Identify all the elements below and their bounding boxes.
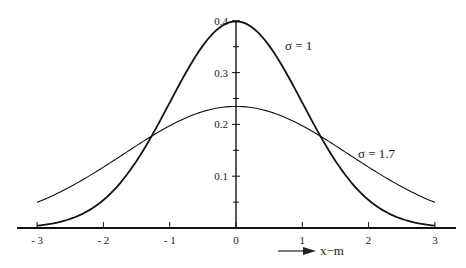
sigma-1-label: σ = 1 — [285, 38, 312, 53]
arrow-right-icon — [303, 247, 316, 255]
y-tick-label: 0.3 — [214, 67, 228, 79]
x-tick-label: - 3 — [31, 234, 43, 246]
x-tick-label: - 2 — [97, 234, 109, 246]
x-axis-title: x−m — [278, 243, 344, 258]
x-tick-label: - 1 — [164, 234, 176, 246]
x-tick-label: 3 — [432, 234, 438, 246]
y-tick-label: 0.1 — [214, 170, 228, 182]
sigma-1.7-label: σ = 1.7 — [358, 146, 396, 161]
y-tick-label: 0.4 — [214, 15, 228, 27]
y-tick-label: 0.2 — [214, 118, 228, 130]
x-tick-label: 2 — [366, 234, 372, 246]
gaussian-chart: - 3- 2- 10123 0.10.20.30.4 σ = 1 σ = 1.7… — [0, 0, 466, 268]
x-tick-label: 1 — [300, 234, 306, 246]
x-axis-title-text: x−m — [320, 243, 344, 258]
x-tick-label: 0 — [233, 234, 239, 246]
y-axis: 0.10.20.30.4 — [214, 15, 240, 228]
